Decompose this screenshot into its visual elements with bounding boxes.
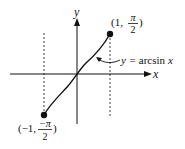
y-axis-label: y	[73, 5, 80, 19]
lower-point-label: (−1, −π 2 )	[18, 118, 57, 142]
upper-point-label: (1, π 2 )	[111, 12, 143, 35]
x-axis-label: x	[152, 67, 159, 81]
curve-label-x: x	[167, 54, 173, 66]
upper-point-open: (1,	[111, 16, 123, 29]
lower-point-close: )	[53, 122, 57, 135]
curve-label-fn: arcsin	[139, 54, 166, 66]
x-axis-arrow-icon	[144, 71, 152, 77]
arcsin-graph: x y y = arcsinx (1, π 2 ) (−1, −π 2 )	[0, 0, 185, 149]
upper-endpoint-dot	[107, 31, 113, 37]
lower-point-num: −π	[39, 118, 52, 129]
lower-point-den: 2	[43, 131, 48, 142]
curve-label-pointer	[98, 59, 120, 63]
upper-point-num: π	[130, 12, 136, 23]
curve-label: y = arcsinx	[120, 54, 173, 66]
y-axis-arrow-icon	[74, 18, 80, 26]
curve-label-y: y =	[120, 54, 139, 66]
upper-point-den: 2	[131, 24, 136, 35]
lower-point-open: (−1,	[18, 122, 36, 135]
upper-point-close: )	[139, 16, 143, 29]
